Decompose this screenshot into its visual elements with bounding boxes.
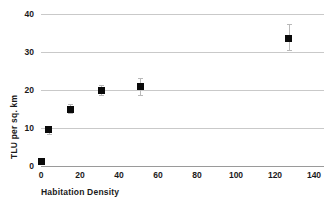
error-bar-cap-2-low: [68, 113, 73, 114]
data-point-0[interactable]: [38, 158, 45, 165]
data-point-2[interactable]: [67, 106, 74, 113]
error-bar-cap-5-low: [287, 50, 292, 51]
y-axis-title: TLU per sq. km: [9, 95, 19, 159]
y-tick-label-0: 0: [12, 162, 34, 171]
y-tick-label-30: 30: [12, 48, 34, 57]
error-bar-cap-3-low: [99, 95, 104, 96]
error-bar-cap-4-high: [138, 78, 143, 79]
x-tick-label-100: 100: [223, 171, 249, 180]
x-axis-line: [41, 166, 324, 167]
scatter-chart: 010203040020406080100120140Habitation De…: [0, 0, 328, 202]
gridline-y-20: [41, 90, 324, 91]
x-tick-label-0: 0: [28, 171, 54, 180]
x-tick-label-80: 80: [184, 171, 210, 180]
data-point-5[interactable]: [285, 35, 292, 42]
data-point-1[interactable]: [45, 126, 52, 133]
x-tick-label-60: 60: [145, 171, 171, 180]
y-tick-label-20: 20: [12, 86, 34, 95]
gridline-y-30: [41, 52, 324, 53]
data-point-3[interactable]: [98, 87, 105, 94]
error-bar-cap-5-high: [287, 24, 292, 25]
data-point-4[interactable]: [137, 83, 144, 90]
error-bar-cap-4-low: [138, 95, 143, 96]
x-axis-title: Habitation Density: [41, 187, 119, 197]
gridline-y-40: [41, 14, 324, 15]
x-tick-label-120: 120: [262, 171, 288, 180]
x-tick-label-140: 140: [301, 171, 327, 180]
y-tick-label-40: 40: [12, 10, 34, 19]
error-bar-cap-1-low: [47, 134, 52, 135]
x-tick-label-20: 20: [67, 171, 93, 180]
plot-area: 010203040020406080100120140Habitation De…: [0, 0, 328, 202]
gridline-y-10: [41, 128, 324, 129]
x-tick-label-40: 40: [106, 171, 132, 180]
